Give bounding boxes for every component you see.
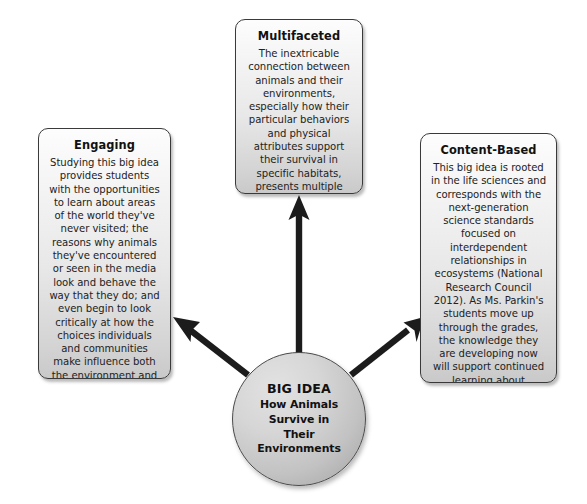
big-idea-text-line: Survive in (257, 413, 341, 428)
big-idea-circle: BIG IDEA How AnimalsSurvive inTheirEnvir… (232, 352, 366, 486)
concept-box-multifaceted: Multifaceted The inextricable connection… (235, 19, 363, 194)
diagram-canvas: Multifaceted The inextricable connection… (0, 0, 587, 504)
concept-title-multifaceted: Multifaceted (245, 29, 353, 43)
arrow-to-multifaceted (289, 195, 310, 358)
concept-body-engaging: Studying this big idea provides students… (48, 156, 161, 379)
concept-title-engaging: Engaging (48, 138, 161, 152)
concept-box-content-based: Content-Based This big idea is rooted in… (420, 133, 557, 383)
big-idea-text-line: How Animals (257, 398, 341, 413)
concept-body-content-based: This big idea is rooted in the life scie… (430, 161, 547, 383)
big-idea-text: How AnimalsSurvive inTheirEnvironments (257, 398, 341, 456)
big-idea-label: BIG IDEA (267, 381, 331, 396)
arrow-to-engaging (173, 317, 248, 375)
concept-title-content-based: Content-Based (430, 143, 547, 157)
big-idea-text-line: Their (257, 428, 341, 443)
concept-body-multifaceted: The inextricable connection between anim… (245, 47, 353, 194)
big-idea-text-line: Environments (257, 442, 341, 457)
concept-box-engaging: Engaging Studying this big idea provides… (38, 128, 171, 379)
arrow-to-content-based (351, 317, 424, 375)
